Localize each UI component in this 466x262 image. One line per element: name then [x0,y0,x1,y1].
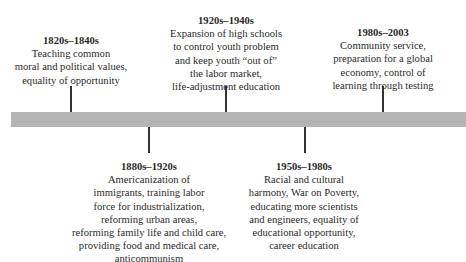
event-description: Americanization of immigrants, training … [60,173,238,262]
event-1950s: 1950s–1980s Racial and cultural harmony,… [240,160,368,252]
event-description: Racial and cultural harmony, War on Pove… [240,173,368,252]
event-period: 1820s–1840s [0,34,142,47]
event-period: 1920s–1940s [150,14,302,27]
event-1880s: 1880s–1920s Americanization of immigrant… [60,160,238,262]
event-period: 1950s–1980s [240,160,368,173]
tick-1820s [70,86,72,112]
event-description: Expansion of high schools to control you… [150,27,302,93]
tick-1880s [148,127,150,153]
event-period: 1980s–2003 [318,26,448,39]
event-1980s: 1980s–2003 Community service, preparatio… [318,26,448,92]
tick-1950s [304,127,306,153]
event-period: 1880s–1920s [60,160,238,173]
event-1920s: 1920s–1940s Expansion of high schools to… [150,14,302,93]
timeline-bar [11,112,466,127]
event-description: Teaching common moral and political valu… [0,47,142,87]
event-description: Community service, preparation for a glo… [318,39,448,92]
event-1820s: 1820s–1840s Teaching common moral and po… [0,34,142,87]
